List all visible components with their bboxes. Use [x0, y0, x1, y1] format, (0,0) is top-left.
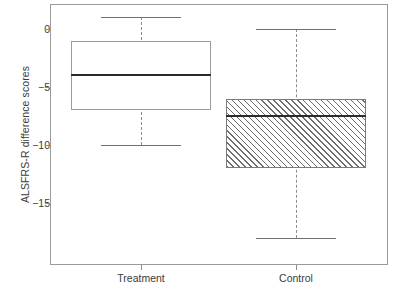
boxplot-chart: ALSFRS-R difference scores 0 −5 −10 −15 …	[0, 0, 398, 289]
control-lower-whisker-cap	[256, 238, 336, 239]
y-tick-mark-0	[45, 29, 49, 30]
x-tick-label-control: Control	[279, 272, 313, 284]
control-box	[226, 99, 366, 169]
y-axis-ticks: 0 −5 −10 −15	[0, 0, 50, 289]
y-tick-mark-minus5	[45, 87, 49, 88]
treatment-upper-whisker-cap	[101, 17, 181, 18]
y-tick-mark-minus15	[45, 203, 49, 204]
x-tick-label-treatment: Treatment	[117, 272, 164, 284]
treatment-median-line	[71, 74, 211, 76]
control-upper-whisker-cap	[256, 29, 336, 30]
treatment-lower-whisker-cap	[101, 145, 181, 146]
control-median-line	[226, 115, 366, 117]
y-tick-mark-minus10	[45, 145, 49, 146]
x-tick-mark-control	[296, 265, 297, 270]
x-tick-mark-treatment	[141, 265, 142, 270]
